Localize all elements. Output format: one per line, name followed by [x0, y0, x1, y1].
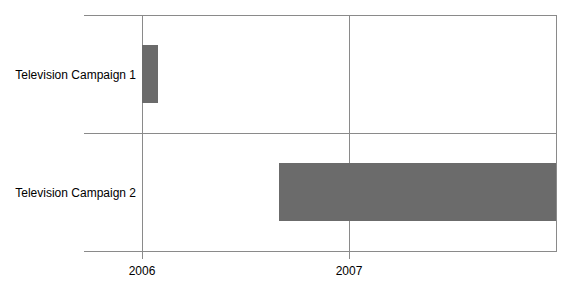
bar-television-campaign-2: [279, 163, 556, 221]
x-tick-2006: 2006: [112, 264, 172, 278]
grid-line-middle: [84, 133, 556, 134]
grid-line-top: [84, 15, 556, 16]
category-label-1: Television Campaign 1: [0, 68, 136, 82]
category-label-2: Television Campaign 2: [0, 186, 136, 200]
grid-line-2007: [349, 15, 350, 259]
x-tick-2007: 2007: [319, 264, 379, 278]
bar-television-campaign-1: [142, 45, 158, 103]
grid-line-bottom: [84, 251, 556, 252]
plot-right-border: [556, 15, 557, 252]
